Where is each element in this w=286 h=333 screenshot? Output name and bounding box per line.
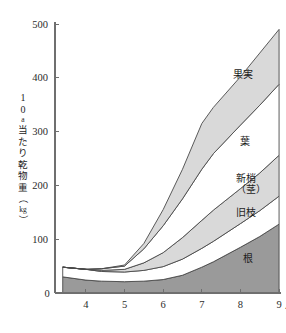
ylabel-char: a — [14, 115, 32, 124]
x-tick-label-8: 8 — [238, 299, 243, 310]
ylabel-char: 物 — [14, 170, 32, 182]
x-tick-label-9: 9 — [276, 299, 281, 310]
y-tick-label-0: 0 — [44, 288, 49, 299]
stacked-area-chart: 0100200300400500456789月 — [0, 0, 286, 333]
x-tick-label-7: 7 — [199, 299, 204, 310]
new-shoot-line2: （茎） — [236, 184, 266, 195]
series-label-leaf: 葉 — [240, 136, 250, 147]
ylabel-char: ） — [17, 210, 29, 228]
x-tick-label-5: 5 — [122, 299, 127, 310]
ylabel-char: （ — [17, 190, 29, 208]
ylabel-char: た — [14, 136, 32, 148]
x-axis-unit-label: 月 — [285, 299, 286, 310]
ylabel-char: り — [14, 147, 32, 159]
y-axis-label: 10a当たり乾物重（kg） — [14, 92, 32, 225]
x-tick-label-4: 4 — [83, 299, 89, 310]
series-label-new-shoot: 新梢 （茎） — [236, 173, 266, 195]
x-tick-label-6: 6 — [161, 299, 166, 310]
ylabel-char: 0 — [14, 104, 32, 116]
series-label-old-branch: 旧枝 — [236, 207, 256, 218]
y-tick-label-300: 300 — [32, 126, 48, 137]
new-shoot-line1: 新梢 — [236, 173, 256, 184]
y-tick-label-200: 200 — [32, 180, 48, 191]
y-tick-label-500: 500 — [32, 19, 48, 30]
chart-figure: 0100200300400500456789月 10a当たり乾物重（kg） 果実… — [0, 0, 286, 333]
ylabel-char: 1 — [14, 92, 32, 104]
series-label-root: 根 — [243, 253, 253, 264]
ylabel-char: 当 — [14, 124, 32, 136]
y-tick-label-400: 400 — [32, 72, 48, 83]
y-tick-label-100: 100 — [32, 234, 48, 245]
ylabel-char: 乾 — [14, 159, 32, 171]
series-label-fruit: 果実 — [233, 69, 253, 80]
